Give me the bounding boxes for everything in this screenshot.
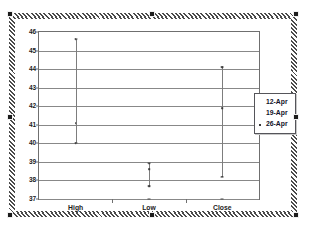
y-axis-tick-label: 43 <box>29 84 36 91</box>
resize-handle-top-right[interactable] <box>293 11 299 17</box>
gridline <box>39 88 259 89</box>
y-axis-tick-label: 41 <box>29 122 36 129</box>
resize-handle-bottom-center[interactable] <box>149 212 155 218</box>
x-axis-tick-mark <box>112 199 113 203</box>
chart-legend[interactable]: 12-Apr 19-Apr 26-Apr <box>254 93 296 134</box>
y-axis-tick-mark <box>36 161 39 162</box>
x-axis-tick-label: High <box>68 205 83 212</box>
x-axis-tick-label: Low <box>142 205 156 212</box>
y-axis-tick-label: 44 <box>29 66 36 73</box>
series-data-point[interactable] <box>75 122 77 124</box>
legend-item[interactable]: 12-Apr <box>257 97 293 108</box>
resize-handle-top-center[interactable] <box>149 11 155 17</box>
legend-label: 12-Apr <box>266 99 288 106</box>
y-axis-tick-label: 42 <box>29 103 36 110</box>
y-axis-tick-label: 40 <box>29 140 36 147</box>
plot-area[interactable]: 46454443424140393837HighLowClose <box>38 31 260 200</box>
resize-handle-top-left[interactable] <box>7 11 13 17</box>
y-axis-tick-mark <box>36 124 39 125</box>
gridline <box>39 69 259 70</box>
legend-item[interactable]: 26-Apr <box>257 119 293 130</box>
legend-key-icon <box>257 99 264 106</box>
y-axis-tick-mark <box>36 106 39 107</box>
series-range-line[interactable] <box>222 67 223 176</box>
y-axis-tick-label: 39 <box>29 159 36 166</box>
resize-handle-middle-left[interactable] <box>7 114 13 120</box>
y-axis-tick-label: 45 <box>29 47 36 54</box>
series-data-point[interactable] <box>148 168 150 170</box>
legend-item[interactable]: 19-Apr <box>257 108 293 119</box>
series-data-point[interactable] <box>148 163 150 165</box>
y-axis-tick-mark <box>36 180 39 181</box>
x-axis-tick-label: Close <box>213 205 232 212</box>
series-data-point[interactable] <box>222 176 224 178</box>
resize-handle-bottom-right[interactable] <box>293 212 299 218</box>
series-data-point[interactable] <box>222 66 224 68</box>
y-axis-tick-label: 37 <box>29 196 36 203</box>
y-axis-tick-mark <box>36 50 39 51</box>
gridline <box>39 106 259 107</box>
baseline-data-marker[interactable] <box>148 199 151 200</box>
legend-label: 19-Apr <box>266 110 288 117</box>
screenshot-root: 46454443424140393837HighLowClose 12-Apr … <box>0 0 314 242</box>
series-data-point[interactable] <box>148 185 150 187</box>
legend-key-icon <box>257 110 264 117</box>
series-data-point[interactable] <box>222 107 224 109</box>
gridline <box>39 143 259 144</box>
series-range-line[interactable] <box>149 163 150 186</box>
y-axis-tick-mark <box>36 32 39 33</box>
series-data-point[interactable] <box>75 39 77 41</box>
y-axis-tick-mark <box>36 69 39 70</box>
y-axis-tick-mark <box>36 199 39 200</box>
gridline <box>39 125 259 126</box>
gridline <box>39 51 259 52</box>
legend-key-dot-icon <box>257 121 264 128</box>
legend-label: 26-Apr <box>266 121 288 128</box>
series-range-line[interactable] <box>76 39 77 143</box>
resize-handle-bottom-left[interactable] <box>7 212 13 218</box>
series-data-point[interactable] <box>75 143 77 145</box>
resize-handle-middle-right[interactable] <box>293 114 299 120</box>
x-axis-tick-mark <box>186 199 187 203</box>
chart-object[interactable]: 46454443424140393837HighLowClose 12-Apr … <box>15 19 291 211</box>
y-axis-tick-label: 38 <box>29 177 36 184</box>
y-axis-tick-mark <box>36 143 39 144</box>
baseline-data-marker[interactable] <box>221 199 224 200</box>
y-axis-tick-mark <box>36 87 39 88</box>
y-axis-tick-label: 46 <box>29 29 36 36</box>
